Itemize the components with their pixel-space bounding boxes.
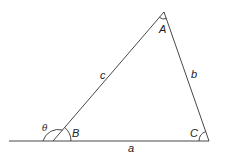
vertex-label-a: A: [158, 23, 166, 35]
vertex-label-b: B: [72, 127, 79, 139]
angle-arc-b: [65, 127, 71, 141]
exterior-angle-label-theta: θ: [42, 123, 48, 133]
side-label-a: a: [128, 142, 134, 154]
triangle-diagram: A B C a b c θ: [0, 0, 230, 160]
angle-arc-c: [199, 132, 206, 141]
side-label-c: c: [100, 69, 106, 81]
side-label-b: b: [191, 68, 197, 80]
vertex-label-c: C: [190, 127, 198, 139]
angle-arc-a: [159, 17, 166, 19]
side-b: [164, 12, 209, 141]
side-c: [53, 12, 164, 141]
